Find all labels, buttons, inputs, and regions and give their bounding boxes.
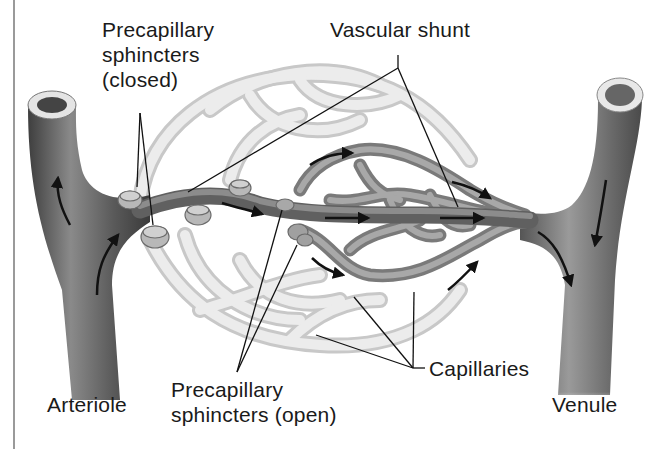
label-arteriole: Arteriole xyxy=(47,392,127,417)
sphincter-open-1 xyxy=(276,199,294,211)
sphincter-closed-4 xyxy=(229,180,251,196)
label-vascular-shunt: Vascular shunt xyxy=(330,17,470,42)
sphincter-closed-1 xyxy=(118,191,142,209)
label-venule: Venule xyxy=(552,392,617,417)
venule-vessel xyxy=(520,78,643,410)
label-capillaries: Capillaries xyxy=(429,356,529,381)
leader-capillaries xyxy=(413,292,414,368)
sphincter-closed-2 xyxy=(141,226,169,248)
arteriole-vessel xyxy=(28,91,150,420)
label-sphincters-open: Precapillary sphincters (open) xyxy=(171,377,337,427)
label-sphincters-closed: Precapillary sphincters (closed) xyxy=(102,17,214,92)
sphincter-closed-3 xyxy=(185,205,211,225)
